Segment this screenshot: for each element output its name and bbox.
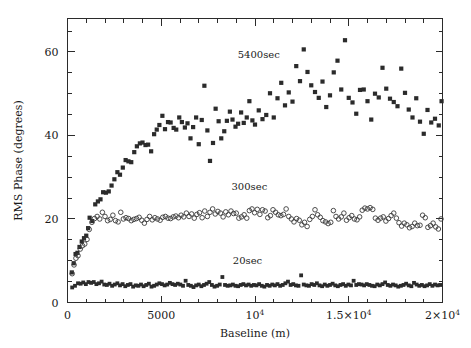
data-point [399, 67, 403, 71]
data-point [197, 142, 201, 146]
data-point [438, 283, 442, 287]
x-tick-label: 2×104 [425, 308, 460, 322]
data-point [228, 110, 232, 114]
data-point [373, 92, 377, 96]
data-point [283, 103, 287, 107]
x-tick-labels: 050001041.5×1042×104 [64, 308, 460, 322]
data-point [160, 114, 164, 118]
data-point [358, 88, 362, 92]
data-point [439, 99, 443, 103]
data-point [347, 96, 351, 100]
annotation-300sec: 300sec [232, 181, 268, 192]
data-point [399, 224, 404, 229]
data-point [191, 125, 195, 129]
data-point [260, 117, 264, 121]
data-point [219, 136, 223, 140]
data-point [211, 141, 215, 145]
data-point [247, 99, 251, 103]
data-point [299, 273, 303, 277]
data-point [250, 118, 254, 122]
data-point [268, 91, 272, 95]
data-point [109, 183, 113, 187]
data-point [365, 99, 369, 103]
data-point [264, 113, 268, 117]
data-point [422, 132, 426, 136]
data-point [111, 213, 116, 218]
data-point [433, 117, 437, 121]
data-point [339, 87, 343, 91]
data-point [257, 108, 261, 112]
data-point [317, 96, 321, 100]
annotation-20sec: 20sec [233, 255, 263, 266]
data-series-group [70, 38, 444, 289]
series-annotations: 5400sec300sec20sec [232, 49, 281, 266]
x-tick-label: 5000 [147, 309, 175, 322]
data-point [225, 119, 229, 123]
data-point [180, 120, 184, 124]
data-point [407, 107, 411, 111]
data-point [437, 123, 441, 127]
data-point [392, 100, 396, 104]
data-point [313, 90, 317, 94]
annotation-5400sec: 5400sec [238, 49, 280, 60]
data-point [343, 38, 347, 42]
data-point [205, 128, 209, 132]
data-point [118, 173, 122, 177]
data-point [98, 197, 102, 201]
data-point [245, 115, 249, 119]
data-point [279, 81, 283, 85]
data-point [305, 224, 310, 229]
y-tick-label: 0 [52, 297, 59, 310]
data-point [384, 87, 388, 91]
data-point [220, 275, 224, 279]
data-point [328, 93, 332, 97]
data-point [112, 177, 116, 181]
data-point [394, 216, 399, 221]
data-point [409, 284, 413, 288]
data-point [200, 118, 204, 122]
data-point [205, 214, 210, 219]
x-tick-label: 0 [64, 309, 71, 322]
data-point [302, 47, 306, 51]
y-tick-labels: 0204060 [45, 46, 59, 310]
data-point [331, 208, 336, 213]
data-point [377, 95, 381, 99]
data-point [208, 159, 212, 163]
data-point [188, 136, 192, 140]
data-point [350, 100, 354, 104]
data-point [223, 210, 228, 215]
figure-container: 050001041.5×1042×104 0204060 5400sec300s… [0, 0, 471, 348]
x-tick-label: 104 [246, 308, 265, 322]
data-point [169, 120, 173, 124]
data-point [222, 129, 226, 133]
series-5400sec [70, 38, 444, 274]
x-axis-title: Baseline (m) [220, 327, 290, 340]
data-point [298, 79, 302, 83]
data-point [369, 117, 373, 121]
data-point [236, 122, 240, 126]
data-point [354, 112, 358, 116]
data-point [320, 79, 324, 83]
data-point [107, 189, 111, 193]
data-point [146, 143, 150, 147]
data-point [255, 207, 260, 212]
scatter-plot: 050001041.5×1042×104 0204060 5400sec300s… [0, 0, 471, 348]
data-point [244, 216, 249, 221]
data-point [239, 110, 243, 114]
data-point [200, 215, 205, 220]
data-point [324, 105, 328, 109]
data-point [275, 96, 279, 100]
data-point [429, 120, 433, 124]
data-point [342, 211, 347, 216]
data-point [184, 279, 188, 283]
data-point [357, 215, 362, 220]
data-point [155, 127, 159, 131]
data-point [100, 210, 105, 215]
data-point [380, 66, 384, 70]
data-point [335, 59, 339, 63]
data-point [414, 96, 418, 100]
series-20sec [70, 273, 442, 289]
data-point [152, 132, 156, 136]
data-point [418, 120, 422, 124]
data-point [410, 115, 414, 119]
